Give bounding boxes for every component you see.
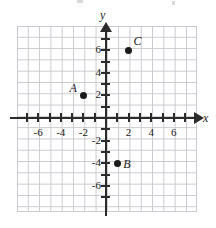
x-axis-tick (150, 113, 152, 122)
x-tick-label: -6 (27, 126, 49, 138)
y-axis-tick (101, 140, 110, 142)
y-axis-tick (101, 162, 110, 164)
y-axis-tick (101, 49, 110, 51)
coordinate-plane-figure: x y -6-4-2246642-2-4-6 ABC (0, 0, 216, 228)
x-axis-tick (128, 113, 130, 122)
data-point-a (80, 92, 87, 99)
x-tick-label: 6 (163, 126, 185, 138)
data-point-c (125, 47, 132, 54)
x-tick-label: -4 (50, 126, 72, 138)
point-label-c: C (134, 34, 142, 49)
x-axis-tick (173, 113, 175, 122)
scan-artifact-left (77, 0, 83, 3)
x-axis-tick (139, 113, 141, 122)
x-axis-tick (116, 113, 118, 122)
y-axis-tick (101, 106, 110, 108)
point-label-b: B (123, 157, 130, 172)
y-axis-tick (101, 196, 110, 198)
y-axis-tick (101, 151, 110, 153)
x-axis-tick (60, 113, 62, 122)
x-axis-tick (94, 113, 96, 122)
data-point-b (114, 160, 121, 167)
x-axis-tick (162, 113, 164, 122)
y-axis-line (105, 30, 107, 216)
y-axis-arrow-icon (100, 22, 112, 32)
y-tick-label: -4 (79, 156, 101, 168)
y-tick-label: 4 (79, 66, 101, 78)
y-axis-tick (101, 94, 110, 96)
y-axis-label: y (100, 8, 105, 23)
y-tick-label: -6 (79, 179, 101, 191)
y-axis-tick (101, 185, 110, 187)
x-tick-label: 2 (118, 126, 140, 138)
y-axis-tick (101, 128, 110, 130)
y-axis-tick (101, 72, 110, 74)
x-tick-label: 4 (140, 126, 162, 138)
scan-artifact-right (172, 1, 175, 5)
y-tick-label: 6 (79, 43, 101, 55)
x-axis-tick (82, 113, 84, 122)
x-axis-tick (26, 113, 28, 122)
x-axis-tick (184, 113, 186, 122)
y-axis-tick (101, 174, 110, 176)
y-axis-tick (101, 83, 110, 85)
x-axis-tick (37, 113, 39, 122)
x-axis-tick (49, 113, 51, 122)
point-label-a: A (69, 81, 76, 96)
x-axis-tick (71, 113, 73, 122)
y-axis-tick (101, 38, 110, 40)
x-axis-label: x (203, 111, 208, 126)
y-tick-label: -2 (79, 134, 101, 146)
y-axis-tick (101, 61, 110, 63)
